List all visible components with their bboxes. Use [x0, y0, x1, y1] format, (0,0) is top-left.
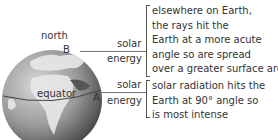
annotation-a-line: is most intense	[152, 108, 265, 123]
annotation-bracket-b	[146, 5, 147, 77]
annotation-a-line: solar radiation hits the	[152, 79, 265, 94]
annotation-a-line: Earth at 90° angle so	[152, 94, 265, 109]
annotation-bracket-a	[146, 80, 147, 118]
annotation-b-line: elsewhere on Earth,	[152, 4, 278, 19]
earth-globe	[0, 0, 140, 140]
annotation-b-line: over a greater surface area.	[152, 62, 278, 77]
annotation-b-line: the rays hit the	[152, 19, 278, 34]
solar-ray-a	[101, 92, 146, 93]
north-label: north	[41, 30, 68, 42]
solar-label-a-line2: energy	[107, 95, 142, 107]
annotation-b: elsewhere on Earth, the rays hit the Ear…	[152, 4, 278, 77]
equator-label: equator	[37, 88, 76, 100]
solar-ray-b	[80, 51, 146, 52]
solar-label-b-line1: solar	[117, 38, 141, 50]
annotation-a: solar radiation hits the Earth at 90° an…	[152, 79, 265, 123]
point-b-label: B	[63, 44, 70, 56]
annotation-b-line: Earth at a more acute	[152, 33, 278, 48]
point-a-label: A	[93, 92, 100, 104]
annotation-b-line: angle so are spread	[152, 48, 278, 63]
solar-label-b-line2: energy	[107, 53, 142, 65]
solar-label-a-line1: solar	[117, 79, 141, 91]
